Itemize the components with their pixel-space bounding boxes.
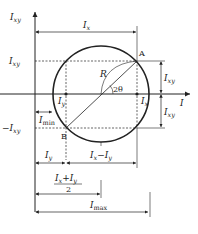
point-a-label: A — [138, 49, 145, 58]
axis-label-ixy: Ixy — [9, 12, 21, 24]
axis-label-i: I — [179, 98, 184, 108]
label-ix-top: Ix — [82, 20, 91, 32]
ix-point — [135, 92, 138, 95]
mohr-circle-diagram: Ixy I Ix Ixy −Ixy A B R 2θ Iy Ix Imin Ix… — [0, 0, 198, 234]
point-b-label: B — [61, 132, 67, 141]
label-r: R — [99, 69, 107, 79]
label-average-denominator: 2 — [66, 185, 71, 194]
label-iy-point: Iy — [57, 96, 66, 108]
label-ix-point: Ix — [140, 96, 149, 108]
label-ixy-left: Ixy — [8, 56, 20, 68]
label-neg-ixy-left: −Ixy — [2, 123, 21, 135]
label-ix-minus-iy: Ix−Iy — [89, 150, 112, 162]
label-ixy-right-upper: Ixy — [163, 73, 175, 85]
label-iy-dim: Iy — [44, 150, 53, 162]
label-2theta: 2θ — [113, 85, 123, 94]
label-average-numerator: Ix+Iy — [54, 173, 77, 185]
label-ixy-right-lower: Ixy — [163, 107, 175, 119]
iy-point — [64, 92, 67, 95]
label-imin: Imin — [38, 115, 55, 127]
label-imax: Imax — [89, 200, 108, 212]
